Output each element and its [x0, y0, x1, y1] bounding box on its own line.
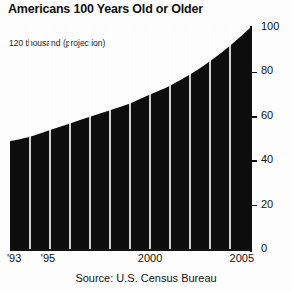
chart-title: Americans 100 Years Old or Older	[8, 2, 203, 16]
source-caption: Source: U.S. Census Bureau	[0, 272, 292, 284]
y-tick-mark	[251, 116, 257, 118]
band-separator-line	[229, 28, 231, 250]
band-separator-line	[89, 28, 91, 250]
band-separator-line	[129, 28, 131, 250]
y-tick-label: 20	[261, 198, 273, 210]
y-tick-mark	[251, 205, 257, 207]
band-separator-line	[29, 28, 31, 250]
plot-area	[10, 28, 250, 250]
band-separator-line	[69, 28, 71, 250]
x-tick-label: '93	[7, 252, 21, 264]
band-separator-line	[169, 28, 171, 250]
band-separator-line	[189, 28, 191, 250]
x-axis-line	[10, 249, 251, 251]
y-tick-label: 40	[261, 153, 273, 165]
band-separator-line	[109, 28, 111, 250]
y-tick-mark	[251, 160, 257, 162]
band-separator-line	[149, 28, 151, 250]
chart-figure: Americans 100 Years Old or Older 120 tho…	[0, 0, 292, 291]
x-tick-label: '95	[41, 252, 55, 264]
y-tick-label: 0	[261, 242, 267, 254]
band-separator-line	[49, 28, 51, 250]
x-tick-label: 2000	[138, 252, 162, 264]
y-tick-mark	[251, 72, 257, 74]
x-tick-label: 2005	[230, 252, 254, 264]
y-axis-line	[250, 26, 252, 252]
y-tick-label: 100	[261, 20, 279, 32]
y-tick-label: 60	[261, 109, 273, 121]
band-separator-line	[209, 28, 211, 250]
area-series	[10, 28, 250, 250]
y-tick-label: 80	[261, 64, 273, 76]
